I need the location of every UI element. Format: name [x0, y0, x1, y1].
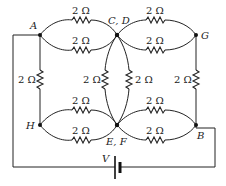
label-node-ef: E, F	[105, 136, 128, 147]
label-battery-v: V	[102, 153, 111, 164]
label-node-h: H	[25, 120, 35, 131]
branch-cd-ef	[102, 35, 132, 125]
circuit-diagram: A C, D G H E, F B V 2 Ω 2 Ω 2 Ω 2 Ω 2 Ω …	[0, 0, 226, 186]
node-h	[38, 123, 42, 127]
label-r-eb-top: 2 Ω	[146, 95, 164, 106]
label-r-ac-top: 2 Ω	[72, 5, 90, 16]
label-r-gb: 2 Ω	[174, 74, 192, 85]
node-g	[194, 33, 198, 37]
label-r-cg-bot: 2 Ω	[146, 35, 164, 46]
node-b	[194, 123, 198, 127]
node-ef	[115, 123, 119, 127]
label-r-ce-right: 2 Ω	[135, 74, 153, 85]
label-r-ah: 2 Ω	[18, 74, 36, 85]
battery-loop	[13, 35, 215, 179]
label-r-cg-top: 2 Ω	[146, 5, 164, 16]
label-node-g: G	[201, 30, 209, 41]
label-r-he-bot: 2 Ω	[72, 125, 90, 136]
label-node-a: A	[29, 20, 37, 31]
label-node-cd: C, D	[108, 15, 130, 26]
label-r-eb-bot: 2 Ω	[146, 125, 164, 136]
node-a	[38, 33, 42, 37]
label-r-he-top: 2 Ω	[72, 95, 90, 106]
node-cd	[115, 33, 119, 37]
branch-g-b	[193, 35, 199, 125]
branch-a-h	[37, 35, 43, 125]
label-r-ac-bot: 2 Ω	[72, 35, 90, 46]
label-node-b: B	[196, 130, 204, 141]
label-r-ce-left: 2 Ω	[83, 74, 101, 85]
